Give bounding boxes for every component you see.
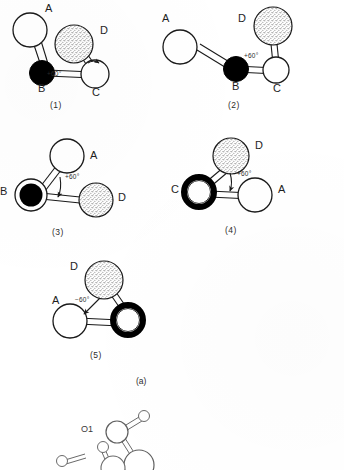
atom-d-sphere	[254, 7, 292, 45]
structure-atom-small-left	[57, 456, 68, 467]
diagram-2: A B C D +60° (2)	[172, 0, 344, 118]
rotation-angle-label: −60°	[75, 296, 89, 303]
rotation-arrow	[230, 173, 232, 191]
diagram-4-caption: (4)	[225, 225, 237, 235]
structure-atom-small-top	[139, 411, 150, 422]
atom-c-sphere	[184, 177, 214, 207]
atom-a-sphere	[13, 13, 47, 47]
diagram-3: A B D +60° (3)	[8, 135, 180, 245]
atom-d-sphere	[85, 261, 123, 299]
atom-label-a: A	[278, 183, 285, 195]
crystal-structure-svg	[55, 412, 235, 470]
atom-a-sphere	[53, 304, 87, 338]
atom-label-c: C	[171, 183, 179, 195]
atom-b-sphere	[224, 57, 249, 82]
atom-d-sphere	[79, 183, 113, 217]
rotation-arrow	[58, 177, 61, 197]
diagram-1-caption: (1)	[50, 100, 62, 110]
atom-d-sphere	[213, 138, 249, 174]
atom-label-c: C	[273, 82, 281, 94]
rotation-angle-label: +60°	[237, 170, 251, 177]
atom-label-a: A	[90, 149, 97, 161]
atom-c-sphere	[263, 57, 289, 83]
structure-atom-large-bottom	[124, 450, 154, 470]
atom-a-sphere	[50, 139, 84, 173]
atom-c-sphere	[81, 60, 109, 88]
atom-a-sphere	[238, 178, 272, 212]
crystal-structure-partial: O1	[55, 412, 235, 470]
diagram-5-svg	[28, 258, 208, 373]
structure-label-o1: O1	[81, 424, 93, 434]
atom-label-d: D	[255, 139, 263, 151]
diagram-4: D C A +60° (4)	[175, 135, 344, 245]
atom-c-sphere	[113, 305, 143, 335]
atom-label-b: B	[0, 185, 7, 197]
atom-label-d: D	[100, 24, 108, 36]
atom-d-sphere	[55, 25, 93, 63]
atom-label-d: D	[238, 12, 246, 24]
diagram-5-caption: (5)	[90, 350, 102, 360]
atom-label-b: B	[38, 82, 45, 94]
atom-label-d: D	[118, 191, 126, 203]
rotation-angle-label: +60°	[65, 173, 79, 180]
diagram-4-svg	[175, 135, 344, 245]
diagram-2-caption: (2)	[228, 100, 240, 110]
diagram-3-caption: (3)	[52, 227, 64, 237]
diagram-2-svg	[172, 0, 344, 118]
diagram-5: D A −60° (5)	[28, 258, 208, 373]
figure-panel-a: A B C D +60° (1)	[0, 0, 344, 470]
atom-b-sphere	[15, 179, 47, 211]
atom-label-a: A	[52, 294, 59, 306]
panel-label-a: (a)	[136, 376, 146, 386]
rotation-angle-label: +60°	[244, 52, 258, 59]
atom-label-d: D	[70, 260, 78, 272]
atom-a-sphere	[163, 30, 197, 64]
atom-label-b: B	[232, 80, 239, 92]
diagram-1: A B C D +60° (1)	[0, 0, 172, 118]
atom-label-a: A	[45, 2, 52, 14]
diagram-1-svg	[0, 0, 172, 118]
rotation-angle-label: +60°	[47, 70, 61, 77]
structure-atom-small-mid	[98, 442, 109, 453]
atom-label-c: C	[92, 86, 100, 98]
atom-label-a: A	[162, 12, 169, 24]
structure-atom-o1	[106, 421, 128, 443]
